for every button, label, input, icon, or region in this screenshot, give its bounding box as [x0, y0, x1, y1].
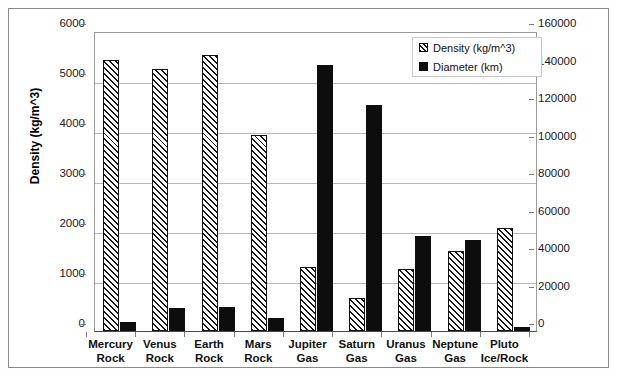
x-category-line: Venus: [135, 338, 184, 352]
x-axis-tick: [529, 332, 530, 337]
x-axis-tick: [86, 332, 87, 337]
right-axis-tick-label: 0: [538, 317, 598, 329]
bar-density: [251, 135, 267, 331]
left-axis-tick-label: 0: [29, 317, 85, 329]
x-axis-tick: [431, 332, 432, 337]
x-category-line: Pluto: [480, 338, 529, 352]
legend-swatch-density-icon: [419, 43, 428, 52]
x-axis-tick: [135, 332, 136, 337]
x-category-label: PlutoIce/Rock: [480, 338, 529, 365]
bar-density: [103, 60, 119, 332]
x-category-label: EarthRock: [184, 338, 233, 365]
legend-label-density: Density (kg/m^3): [433, 42, 515, 54]
x-category-line: Rock: [135, 352, 184, 366]
left-axis-tick-label: 2000: [29, 217, 85, 229]
right-axis-tick-label: 160000: [538, 17, 598, 29]
x-category-line: Gas: [431, 352, 480, 366]
left-axis-tick: [81, 174, 86, 175]
x-category-line: Earth: [184, 338, 233, 352]
x-axis-tick: [480, 332, 481, 337]
right-axis-tick: [529, 137, 534, 138]
right-axis-tick: [529, 99, 534, 100]
x-category-line: Mercury: [86, 338, 135, 352]
right-axis-tick: [529, 324, 534, 325]
x-axis-tick: [234, 332, 235, 337]
right-axis-tick-label: 80000: [538, 167, 598, 179]
bar-diameter: [465, 240, 481, 331]
x-category-line: Rock: [86, 352, 135, 366]
left-axis-tick: [81, 274, 86, 275]
chart-frame: 0100020003000400050006000 02000040000600…: [8, 8, 609, 368]
x-category-line: Uranus: [381, 338, 430, 352]
right-axis-tick-label: 60000: [538, 205, 598, 217]
left-axis-tick-label: 1000: [29, 267, 85, 279]
right-axis-tick-label: 100000: [538, 130, 598, 142]
x-category-line: Rock: [184, 352, 233, 366]
x-category-line: Jupiter: [283, 338, 332, 352]
legend-swatch-diameter-icon: [419, 62, 428, 71]
bar-density: [349, 298, 365, 331]
bar-density: [398, 269, 414, 331]
x-category-line: Mars: [234, 338, 283, 352]
left-axis-tick: [81, 324, 86, 325]
bar-density: [202, 55, 218, 331]
right-axis-tick-label: 20000: [538, 280, 598, 292]
bar-diameter: [268, 318, 284, 331]
right-axis-tick: [529, 174, 534, 175]
x-category-line: Gas: [332, 352, 381, 366]
x-category-line: Gas: [381, 352, 430, 366]
x-axis-tick: [381, 332, 382, 337]
left-axis-tick: [81, 224, 86, 225]
left-axis-tick: [81, 124, 86, 125]
bar-diameter: [366, 105, 382, 331]
legend-item-diameter: Diameter (km): [413, 57, 541, 76]
legend-label-diameter: Diameter (km): [433, 61, 503, 73]
x-axis-tick: [283, 332, 284, 337]
bar-diameter: [415, 236, 431, 331]
bar-density: [448, 251, 464, 331]
chart-legend: Density (kg/m^3) Diameter (km): [412, 37, 542, 77]
bar-diameter: [317, 65, 333, 331]
bar-diameter: [120, 322, 136, 331]
x-category-label: JupiterGas: [283, 338, 332, 365]
bar-density: [300, 267, 316, 332]
right-axis-tick: [529, 212, 534, 213]
right-axis-tick-label: 120000: [538, 92, 598, 104]
right-axis-tick-label: 140000: [538, 55, 598, 67]
x-category-label: MercuryRock: [86, 338, 135, 365]
x-axis-tick: [332, 332, 333, 337]
x-category-line: Ice/Rock: [480, 352, 529, 366]
plot-area: [94, 32, 537, 332]
x-category-label: MarsRock: [234, 338, 283, 365]
bar-diameter: [514, 327, 530, 331]
bar-diameter: [219, 307, 235, 331]
left-axis-title: Density (kg/m^3): [28, 76, 42, 196]
right-axis-tick-label: 40000: [538, 242, 598, 254]
x-category-label: UranusGas: [381, 338, 430, 365]
bar-diameter: [169, 308, 185, 331]
left-axis-tick: [81, 74, 86, 75]
x-category-line: Neptune: [431, 338, 480, 352]
x-category-line: Rock: [234, 352, 283, 366]
left-axis-tick-label: 6000: [29, 17, 85, 29]
x-category-label: NeptuneGas: [431, 338, 480, 365]
left-axis-tick: [81, 24, 86, 25]
legend-item-density: Density (kg/m^3): [413, 38, 541, 57]
right-axis-tick: [529, 249, 534, 250]
chart-root: 0100020003000400050006000 02000040000600…: [0, 0, 617, 378]
bar-density: [497, 228, 513, 331]
right-axis-tick: [529, 287, 534, 288]
x-category-label: VenusRock: [135, 338, 184, 365]
x-category-line: Gas: [283, 352, 332, 366]
bar-density: [152, 69, 168, 331]
right-axis-tick: [529, 24, 534, 25]
x-category-label: SaturnGas: [332, 338, 381, 365]
x-axis-tick: [184, 332, 185, 337]
x-category-line: Saturn: [332, 338, 381, 352]
